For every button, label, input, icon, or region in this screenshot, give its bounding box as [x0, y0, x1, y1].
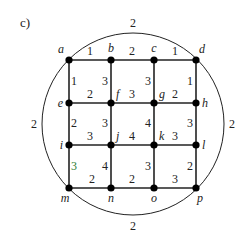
arc-weight-left: 2	[31, 117, 37, 131]
node-label-e: e	[58, 96, 64, 110]
node-a	[65, 56, 72, 63]
edge-weight-i-m: 3	[71, 159, 77, 173]
node-label-p: p	[196, 191, 203, 205]
edge-weight-i-j: 3	[87, 129, 93, 143]
node-label-o: o	[151, 191, 157, 205]
node-label-j: j	[114, 129, 120, 143]
edge-weight-e-f: 2	[87, 87, 93, 101]
node-c	[150, 56, 157, 63]
node-label-f: f	[116, 87, 121, 101]
node-label-i: i	[60, 138, 63, 152]
edge-weight-a-e: 1	[71, 74, 77, 88]
edge-weight-h-l: 3	[187, 116, 193, 130]
node-e	[65, 99, 72, 106]
edge-weight-group: 121232343223123334343132	[71, 44, 193, 186]
edge-weight-c-d: 1	[172, 44, 178, 58]
edge-weight-a-b: 1	[87, 44, 93, 58]
edge-weight-f-j: 3	[102, 116, 108, 130]
edge-weight-b-f: 3	[102, 74, 108, 88]
node-j	[107, 141, 114, 148]
node-h	[192, 99, 199, 106]
arc-weight-bottom: 2	[130, 219, 136, 233]
node-i	[65, 141, 72, 148]
edge-weight-f-g: 3	[129, 87, 135, 101]
edge-weight-k-o: 3	[145, 159, 151, 173]
edge-weight-e-i: 2	[71, 116, 77, 130]
edge-weight-j-n: 4	[102, 159, 108, 173]
edge-weight-o-p: 3	[172, 172, 178, 186]
edge-weight-b-c: 2	[129, 44, 135, 58]
arc-weight-right: 2	[229, 117, 235, 131]
edge-group	[69, 60, 196, 188]
node-label-d: d	[199, 42, 206, 56]
edge-weight-d-h: 1	[187, 74, 193, 88]
edge-weight-c-g: 3	[145, 74, 151, 88]
node-g	[150, 99, 157, 106]
edge-weight-l-p: 2	[187, 159, 193, 173]
node-k	[150, 141, 157, 148]
edge-weight-n-o: 2	[129, 172, 135, 186]
node-d	[192, 56, 199, 63]
edge-weight-g-h: 2	[172, 87, 178, 101]
edge-weight-m-n: 2	[89, 172, 95, 186]
node-label-a: a	[58, 42, 64, 56]
edge-weight-g-k: 4	[145, 116, 151, 130]
node-label-n: n	[108, 191, 114, 205]
node-label-c: c	[151, 41, 157, 55]
node-label-l: l	[202, 138, 206, 152]
node-b	[107, 56, 114, 63]
edge-weight-j-k: 4	[129, 129, 135, 143]
figure-label: c)	[20, 15, 30, 30]
node-label-b: b	[108, 41, 114, 55]
node-label-k: k	[159, 129, 165, 143]
node-l	[192, 141, 199, 148]
graph-diagram: c) 121232343223123334343132 2222 abcdefg…	[0, 0, 246, 243]
edge-weight-k-l: 3	[172, 129, 178, 143]
arc-weight-top: 2	[130, 16, 136, 30]
node-label-m: m	[61, 191, 70, 205]
node-label-g: g	[159, 87, 165, 101]
node-label-h: h	[202, 96, 208, 110]
node-f	[107, 99, 114, 106]
